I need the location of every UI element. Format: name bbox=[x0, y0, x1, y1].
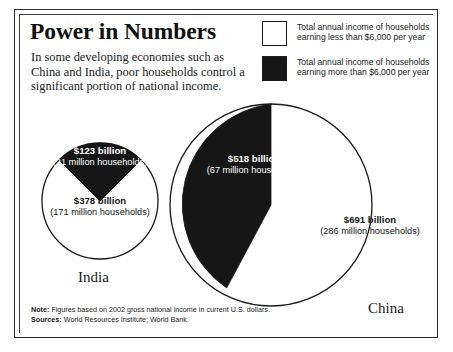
legend-swatch-black-icon bbox=[262, 56, 287, 81]
china-light-amount: $691 billion bbox=[296, 215, 444, 226]
china-light-slice-label: $691 billion (286 million households) bbox=[296, 215, 444, 236]
india-light-amount: $378 billion bbox=[44, 196, 156, 207]
legend-label-less-than-6000: Total annual income of households earnin… bbox=[297, 20, 429, 43]
footnotes: Note: Figures based on 2002 gross nation… bbox=[31, 305, 321, 324]
china-chart-title: China bbox=[368, 300, 404, 317]
india-chart-title: India bbox=[78, 269, 109, 286]
china-dark-households: (67 million households) bbox=[174, 165, 334, 176]
india-dark-slice-label: $123 billion (21 million households) bbox=[46, 146, 154, 167]
legend-swatch-white-icon bbox=[262, 21, 287, 46]
infographic-root: Power in Numbers In some developing econ… bbox=[0, 0, 453, 352]
footnote-note-label: Note: bbox=[31, 305, 49, 314]
footnote-note-text: Figures based on 2002 gross national inc… bbox=[51, 305, 270, 314]
legend-label-line1: Total annual income of households bbox=[297, 22, 429, 32]
india-light-slice-label: $378 billion (171 million households) bbox=[44, 196, 156, 217]
legend-label-line1: Total annual income of households bbox=[297, 57, 429, 67]
footnote-note: Note: Figures based on 2002 gross nation… bbox=[31, 305, 321, 315]
legend-label-line2: earning less than $6,000 per year bbox=[297, 32, 425, 42]
china-dark-amount: $518 billion bbox=[174, 154, 334, 165]
legend: Total annual income of households earnin… bbox=[262, 20, 437, 90]
india-dark-amount: $123 billion bbox=[46, 146, 154, 157]
footnote-sources-text: World Resources Institute; World Bank. bbox=[64, 315, 189, 324]
footnote-sources: Sources: World Resources Institute; Worl… bbox=[31, 315, 321, 325]
legend-label-more-than-6000: Total annual income of households earnin… bbox=[297, 55, 429, 78]
india-dark-households: (21 million households) bbox=[46, 157, 154, 168]
page-deck: In some developing economies such as Chi… bbox=[31, 50, 256, 94]
china-dark-slice-label: $518 billion (67 million households) bbox=[174, 154, 334, 175]
page-title: Power in Numbers bbox=[30, 18, 216, 45]
china-light-households: (286 million households) bbox=[296, 226, 444, 237]
footnote-sources-label: Sources: bbox=[31, 315, 62, 324]
legend-item-more-than-6000: Total annual income of households earnin… bbox=[262, 55, 437, 81]
legend-label-line2: earning more than $6,000 per year bbox=[297, 67, 429, 77]
india-light-households: (171 million households) bbox=[44, 207, 156, 218]
legend-item-less-than-6000: Total annual income of households earnin… bbox=[262, 20, 437, 46]
